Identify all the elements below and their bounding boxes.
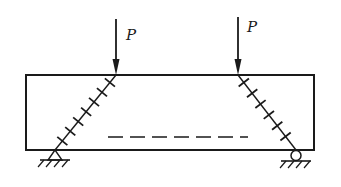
ground-hatch bbox=[62, 160, 68, 167]
ground-hatch bbox=[46, 160, 52, 167]
arrow-head-icon bbox=[113, 59, 120, 75]
crack-tick bbox=[73, 117, 83, 125]
crack-tick bbox=[89, 98, 99, 106]
ground-hatch bbox=[288, 161, 294, 168]
pin-triangle bbox=[48, 150, 62, 160]
left-shear-crack bbox=[55, 75, 116, 150]
crack-tick bbox=[247, 89, 257, 97]
load-label-left: P bbox=[125, 26, 137, 44]
ground-hatch bbox=[54, 160, 60, 167]
crack-tick bbox=[272, 122, 282, 130]
roller-circle bbox=[291, 151, 301, 161]
crack-tick bbox=[105, 78, 115, 86]
crack-tick bbox=[280, 133, 290, 141]
crack-tick bbox=[255, 100, 265, 108]
ground-hatch bbox=[304, 161, 310, 168]
pin-support-icon bbox=[38, 150, 70, 167]
crack-tick bbox=[264, 111, 274, 119]
load-label-right: P bbox=[246, 18, 258, 36]
crack-line bbox=[238, 75, 296, 150]
supports bbox=[38, 150, 311, 168]
load-arrow-right-icon bbox=[235, 17, 242, 75]
load-arrow-left-icon bbox=[113, 19, 120, 75]
crack-line bbox=[55, 75, 116, 150]
ground-hatch bbox=[38, 160, 44, 167]
crack-tick bbox=[57, 137, 67, 145]
crack-tick bbox=[81, 108, 91, 116]
arrow-head-icon bbox=[235, 59, 242, 75]
ground-hatch bbox=[296, 161, 302, 168]
ground-hatch bbox=[280, 161, 286, 168]
beam-diagram: P P bbox=[0, 0, 341, 187]
crack-tick bbox=[97, 88, 107, 96]
roller-support-icon bbox=[280, 151, 311, 169]
crack-tick bbox=[65, 127, 75, 135]
right-shear-crack bbox=[238, 75, 296, 150]
crack-tick bbox=[239, 79, 249, 87]
shear-cracks bbox=[55, 75, 296, 150]
